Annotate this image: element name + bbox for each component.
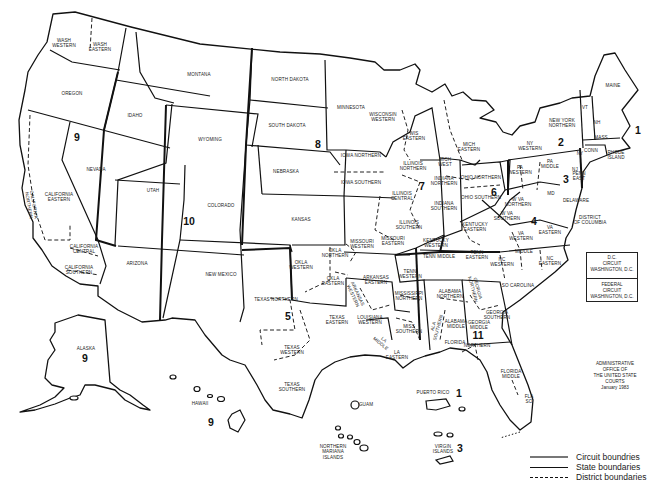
district-label: TEXAS NORTHERN: [254, 297, 298, 302]
district-label: MISSISSIPPI NORTHERN: [395, 291, 423, 302]
district-label: LOUISIANA WESTERN: [357, 315, 382, 326]
alaska-island: [70, 396, 78, 400]
district-label: TEXAS WESTERN: [280, 345, 304, 356]
district-label: NEVADA: [86, 167, 105, 172]
district-label: MASS: [594, 135, 607, 140]
district-label: NY: [577, 151, 584, 156]
district-label: WYOMING: [198, 137, 222, 142]
state-line-swatch: [530, 467, 568, 468]
legend-item-state: State boundaries: [530, 462, 646, 472]
florida-keys: [500, 432, 520, 438]
district-label: VT: [582, 105, 588, 110]
district-label: RHODE ISLAND: [607, 150, 624, 161]
district-label: INDIANA NORTHERN: [431, 176, 458, 187]
legend-item-district: District boundaries: [530, 472, 646, 482]
district-label: INDIANA SOUTHERN: [431, 201, 458, 212]
district-label: CALIFORNIA SOUTHERN: [65, 265, 94, 276]
dc-circuit-label: D.C. CIRCUIT WASHINGTON, D.C.: [587, 253, 637, 279]
district-label: FLORIDA: [445, 340, 466, 345]
district-label: ILLINOIS CENTRAL: [391, 191, 413, 202]
district-label: ARKANSAS EASTERN: [363, 275, 389, 286]
district-label: DELAWARE: [563, 198, 589, 203]
district-label: NH: [594, 120, 601, 125]
circuit-number: 11: [472, 329, 483, 341]
legend-item-circuit: Circuit boundries: [530, 452, 646, 462]
district-label: OKLA NORTHERN: [322, 248, 349, 259]
district-label: WIS EASTERN: [403, 131, 425, 142]
district-label: KANSAS: [291, 217, 310, 222]
district-label: CALIFORNIA EASTERN: [45, 192, 74, 203]
circuit-number: 1: [456, 387, 462, 399]
district-label: HAWAII: [192, 401, 209, 406]
dc-circuit-box: D.C. CIRCUIT WASHINGTON, D.C. FEDERAL CI…: [586, 252, 638, 302]
circuit-number: 9: [74, 131, 80, 143]
district-label: OKLA EASTERN: [322, 276, 344, 287]
circuit-number: 8: [315, 138, 321, 150]
district-label: ALABAMA NORTHERN: [437, 289, 464, 300]
district-label: MISSOURI WESTERN: [350, 239, 374, 250]
district-label: MICH EASTERN: [458, 142, 480, 153]
district-label: PA WESTERN: [508, 165, 532, 176]
district-label: WASH WESTERN: [52, 38, 76, 49]
federal-circuit-label: FEDERAL CIRCUIT WASHINGTON, D.C.: [587, 279, 637, 300]
district-label: MINNESOTA: [337, 105, 365, 110]
district-label: ALASKA: [77, 346, 95, 351]
district-label: CONN: [584, 148, 598, 153]
district-label: IOWA NORTHERN: [341, 153, 381, 158]
circuit-line-swatch: [530, 456, 568, 458]
district-label: NEBRASKA: [273, 169, 299, 174]
credit-text: ADMINISTRATIVE OFFICE OF THE UNITED STAT…: [594, 361, 637, 391]
district-label: NC EASTERN: [539, 256, 561, 267]
puerto-rico-island: [426, 399, 465, 411]
district-label: MD: [547, 191, 554, 196]
district-label: MICH WEST: [438, 157, 452, 168]
district-label: WASH EASTERN: [89, 42, 111, 53]
district-label: OHIO NORTHERN: [461, 175, 501, 180]
district-label: W VA NORTHERN: [505, 197, 532, 208]
district-label: ILLINOIS NORTHERN: [400, 161, 427, 172]
district-label: MISS SOUTHERN: [396, 324, 423, 335]
district-label: UTAH: [147, 188, 160, 193]
district-label: DISTRICT OF COLUMBIA: [574, 215, 607, 226]
circuit-number: 2: [558, 136, 564, 148]
district-label: PUERTO RICO: [417, 390, 450, 395]
district-label: FLORIDA MIDDLE: [501, 369, 522, 380]
circuit-number: 10: [183, 215, 195, 227]
circuit-number: 7: [419, 180, 425, 192]
circuit-number: 1: [635, 124, 641, 136]
district-label: MISSOURI EASTERN: [381, 236, 405, 247]
district-label: TENN WESTERN: [398, 269, 422, 280]
district-label: VA EASTERN: [539, 225, 561, 236]
district-label: W VA SOUTHERN: [494, 211, 521, 222]
circuit-number: 9: [82, 352, 88, 364]
district-label: NORTHERN: [464, 343, 491, 348]
district-label: MONTANA: [187, 72, 210, 77]
district-label: CALIFORNIA CENTRAL: [70, 244, 99, 255]
district-label: TEXAS SOUTHERN: [279, 382, 306, 393]
circuit-number: 5: [285, 310, 291, 322]
district-label: GEORGIA SOUTHERN: [484, 310, 511, 321]
district-label: IOWA SOUTHERN: [341, 180, 381, 185]
district-label: ARIZONA: [126, 261, 147, 266]
district-label: PA MIDDLE: [541, 159, 559, 170]
district-line-swatch: [530, 477, 568, 478]
circuit-number: 3: [457, 442, 463, 454]
district-label: GUAM: [359, 402, 373, 407]
district-label: NORTHERN MARIANA ISLANDS: [320, 444, 347, 460]
district-label: NJ: [572, 167, 578, 172]
district-label: LA EASTERN: [386, 350, 408, 361]
district-label: NEW YORK NORTHERN: [549, 118, 576, 129]
district-label: NEW MEXICO: [205, 272, 236, 277]
district-label: KENTUCKY WESTERN: [423, 238, 449, 249]
district-label: WISCONSIN WESTERN: [369, 112, 396, 123]
circuit-number: 6: [491, 186, 497, 198]
circuit-number: 9: [208, 416, 214, 428]
district-label: OKLA WESTERN: [289, 260, 313, 271]
district-label: MIDDLE: [515, 249, 533, 254]
district-label: NY WESTERN: [518, 141, 542, 152]
district-label: MAINE: [605, 83, 620, 88]
district-label: OREGON: [61, 91, 82, 96]
district-label: ALABAMA MIDDLE: [445, 319, 467, 330]
district-label: SOUTH DAKOTA: [268, 123, 305, 128]
legend: Circuit boundries State boundaries Distr…: [530, 452, 646, 482]
